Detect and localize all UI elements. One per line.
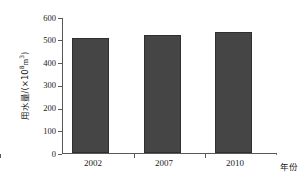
x-tick-label-2007: 2007 [142,159,186,168]
y-tick-mark-0 [58,154,62,155]
y-axis-title-unit-exponent: 3 [18,55,25,59]
y-tick-label-600: 600 [43,14,56,23]
y-tick-label-400: 400 [43,59,56,68]
y-tick-label-500: 500 [43,36,56,45]
x-tick-mark-2 [0,154,1,158]
y-axis-title-close: ) [20,52,30,55]
bar-2007 [144,35,181,153]
x-tick-label-2010: 2010 [213,159,257,168]
bar-chart-figure: 用水量/(×108m3) 600 500 400 300 200 100 0 2… [0,0,307,188]
y-axis-title: 用水量/(×108m3) [18,21,30,151]
y-axis-title-unit: m [20,59,30,66]
x-tick-mark-1 [134,154,135,158]
y-tick-label-200: 200 [43,104,56,113]
x-tick-label-2002: 2002 [71,159,115,168]
y-tick-label-0: 0 [52,150,56,159]
x-axis-title: 年份 [280,160,298,172]
bar-2002 [72,38,109,153]
x-tick-mark-2b [205,154,206,158]
plot-area [62,18,277,154]
y-tick-label-100: 100 [43,127,56,136]
y-axis-title-exponent: 8 [18,65,25,69]
y-tick-label-300: 300 [43,81,56,90]
y-axis-title-prefix: 用水量/(×10 [20,69,30,120]
bar-2010 [215,32,252,154]
